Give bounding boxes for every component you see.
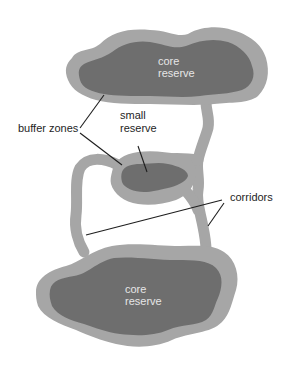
leader-buffer-top xyxy=(80,95,104,128)
reserve-design-diagram: core reserve core reserve small reserve … xyxy=(0,0,302,367)
leader-corridor-right xyxy=(208,203,224,226)
corridor-right xyxy=(197,102,208,250)
corridors-label: corridors xyxy=(230,191,273,203)
small-reserve-label: small reserve xyxy=(120,109,157,134)
buffer-zones-label: buffer zones xyxy=(18,122,79,134)
corridor-left xyxy=(75,159,118,252)
